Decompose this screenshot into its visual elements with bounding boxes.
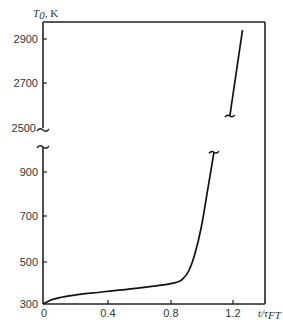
- y-axis-title: T0, K: [33, 7, 58, 21]
- x-tick-labels: 0 0.4 0.8 1.2: [41, 307, 241, 319]
- y-tick-2700: 2700: [14, 77, 38, 89]
- svg-text:t/τFT: t/τFT: [258, 307, 282, 321]
- curve-lower-segment: [43, 152, 214, 304]
- curve-upper-segment: [230, 30, 243, 116]
- y-axis-break-icon: [37, 129, 49, 149]
- y-tick-500: 500: [20, 256, 38, 268]
- y-tick-2900: 2900: [14, 33, 38, 45]
- x-tick-0: 0: [41, 307, 47, 319]
- x-tick-0.8: 0.8: [163, 307, 178, 319]
- y-tick-2500: 2500: [12, 122, 36, 134]
- y-title-unit: , K: [45, 7, 59, 19]
- y-tick-300: 300: [20, 298, 38, 310]
- x-tick-0.4: 0.4: [100, 307, 115, 319]
- x-title-sub: FT: [267, 309, 282, 321]
- y-tick-700: 700: [20, 210, 38, 222]
- y-tick-900: 900: [20, 166, 38, 178]
- curve-break-icon: [209, 115, 235, 153]
- x-tick-1.2: 1.2: [225, 307, 240, 319]
- y-tick-labels: 2900 2700 2500 900 700 500 300: [12, 33, 38, 310]
- svg-text:T0, K: T0, K: [33, 7, 58, 21]
- temperature-chart: 2900 2700 2500 900 700 500 300 0 0.4 0.8…: [0, 0, 283, 322]
- plot-frame: [43, 22, 265, 304]
- x-axis-title: t/τFT: [258, 307, 282, 321]
